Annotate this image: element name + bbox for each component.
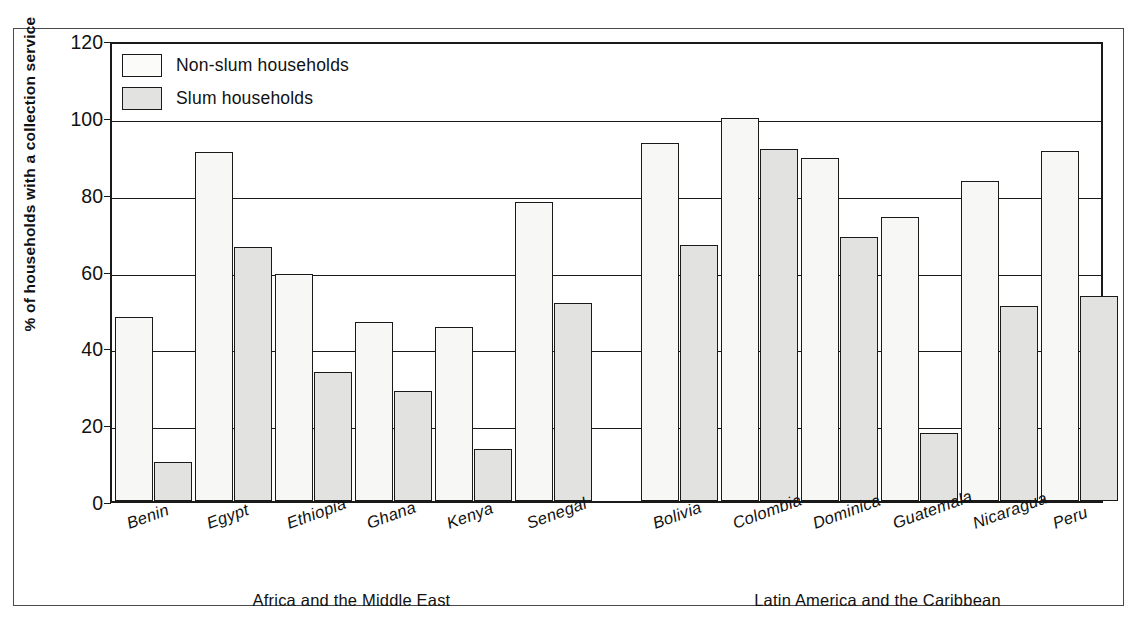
bar-non-slum-dominica bbox=[801, 158, 839, 501]
bar-non-slum-kenya bbox=[435, 327, 473, 501]
bar-slum-ghana bbox=[394, 391, 432, 501]
legend: Non-slum households Slum households bbox=[122, 50, 349, 116]
bar-non-slum-bolivia bbox=[641, 143, 679, 501]
bar-non-slum-guatemala bbox=[881, 217, 919, 501]
legend-label-non-slum: Non-slum households bbox=[176, 55, 349, 76]
bar-non-slum-nicaragua bbox=[961, 181, 999, 501]
bar-slum-nicaragua bbox=[1000, 306, 1038, 501]
y-tick-label-120: 120 bbox=[55, 31, 103, 54]
figure-root: % of households with a collection servic… bbox=[0, 0, 1138, 635]
bar-non-slum-benin bbox=[115, 317, 153, 501]
legend-label-slum: Slum households bbox=[176, 88, 313, 109]
bar-non-slum-peru bbox=[1041, 151, 1079, 501]
y-tick-label-80: 80 bbox=[55, 184, 103, 207]
bar-slum-bolivia bbox=[680, 245, 718, 501]
legend-swatch-non-slum-icon bbox=[122, 54, 162, 77]
y-axis-title: % of households with a collection servic… bbox=[21, 0, 39, 384]
y-tick-label-40: 40 bbox=[55, 338, 103, 361]
bar-slum-colombia bbox=[760, 149, 798, 501]
legend-swatch-slum-icon bbox=[122, 87, 162, 110]
bar-non-slum-ethiopia bbox=[275, 274, 313, 501]
bar-slum-benin bbox=[154, 462, 192, 501]
bar-non-slum-egypt bbox=[195, 152, 233, 501]
y-tick-label-60: 60 bbox=[55, 261, 103, 284]
group-label-latin-america-caribbean: Latin America and the Caribbean bbox=[678, 591, 1078, 610]
bar-non-slum-ghana bbox=[355, 322, 393, 501]
y-tick-label-100: 100 bbox=[55, 107, 103, 130]
y-tick-label-20: 20 bbox=[55, 415, 103, 438]
gridline-80 bbox=[112, 198, 1101, 199]
bar-slum-egypt bbox=[234, 247, 272, 501]
legend-item-slum: Slum households bbox=[122, 83, 349, 113]
bar-slum-guatemala bbox=[920, 433, 958, 501]
bar-non-slum-senegal bbox=[515, 202, 553, 501]
bar-slum-peru bbox=[1080, 296, 1118, 501]
bar-slum-ethiopia bbox=[314, 372, 352, 501]
group-label-africa-middle-east: Africa and the Middle East bbox=[152, 591, 552, 610]
y-tick-label-0: 0 bbox=[55, 492, 103, 515]
bar-slum-senegal bbox=[554, 303, 592, 501]
bar-slum-dominica bbox=[840, 237, 878, 501]
bar-non-slum-colombia bbox=[721, 118, 759, 501]
bar-slum-kenya bbox=[474, 449, 512, 501]
gridline-100 bbox=[112, 121, 1101, 122]
legend-item-non-slum: Non-slum households bbox=[122, 50, 349, 80]
y-tick-mark-0 bbox=[104, 503, 111, 504]
